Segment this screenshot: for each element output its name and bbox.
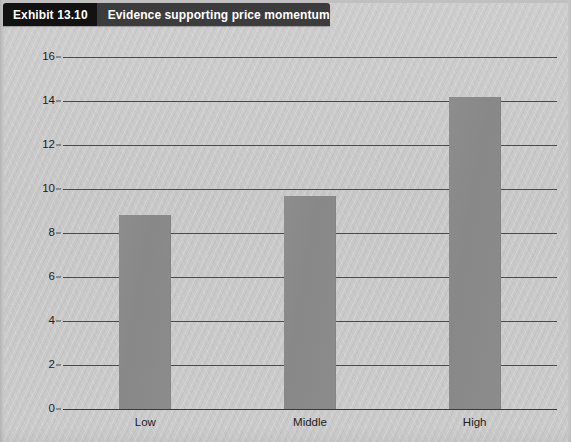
gridline	[63, 409, 557, 410]
y-axis-tick	[56, 233, 61, 234]
bar-middle	[284, 196, 336, 409]
exhibit-number-label: Exhibit 13.10	[3, 3, 97, 26]
page-bottom-edge	[0, 428, 571, 442]
exhibit-header-bar: Exhibit 13.10 Evidence supporting price …	[3, 3, 330, 26]
y-axis-tick	[56, 57, 61, 58]
bar-chart: 0246810121416 LowMiddleHigh	[0, 30, 571, 442]
y-axis-tick-label: 10	[42, 183, 55, 195]
y-axis-tick-label: 6	[49, 271, 55, 283]
exhibit-title-label: Evidence supporting price momentum	[97, 3, 330, 26]
y-axis-tick	[56, 277, 61, 278]
y-axis-tick	[56, 365, 61, 366]
bar-high	[449, 97, 501, 409]
gridline	[63, 57, 557, 58]
y-axis-tick	[56, 409, 61, 410]
x-axis-label-middle: Middle	[293, 417, 327, 429]
y-axis-tick-label: 8	[49, 227, 55, 239]
x-axis-label-high: High	[463, 417, 487, 429]
y-axis-tick	[56, 321, 61, 322]
y-axis-tick-label: 16	[42, 51, 55, 63]
plot-area: 0246810121416	[63, 57, 557, 409]
y-axis-tick-label: 0	[49, 403, 55, 415]
exhibit-figure: Exhibit 13.10 Evidence supporting price …	[0, 0, 571, 442]
bar-low	[119, 215, 171, 409]
x-axis-label-low: Low	[135, 417, 156, 429]
y-axis-tick-label: 4	[49, 315, 55, 327]
y-axis-tick	[56, 145, 61, 146]
y-axis-tick-label: 12	[42, 139, 55, 151]
y-axis-tick	[56, 101, 61, 102]
y-axis-tick-label: 14	[42, 95, 55, 107]
y-axis-tick	[56, 189, 61, 190]
y-axis-tick-label: 2	[49, 359, 55, 371]
